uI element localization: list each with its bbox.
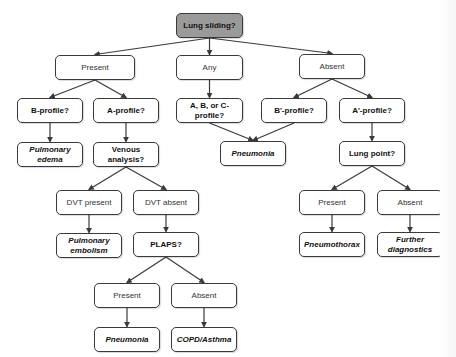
node-plaps-absent: Absent [171, 283, 237, 308]
edge-lung_sliding-to-absent_1 [210, 38, 333, 54]
right-edge-shading [440, 0, 456, 357]
node-abc-profile: A, B, or C-profile? [176, 98, 243, 123]
node-label: Pneumonia [231, 149, 274, 159]
edge-venous_analysis-to-dvt_present [89, 167, 126, 190]
node-label: DVT present [67, 198, 112, 208]
node-label: Lung sliding? [183, 21, 235, 31]
node-any: Any [176, 55, 243, 80]
node-plaps-present: Present [94, 283, 160, 308]
node-label: Present [318, 198, 346, 208]
node-label: Lung point? [349, 149, 395, 159]
edge-venous_analysis-to-dvt_absent [126, 167, 166, 190]
edge-plaps-to-present_plaps [127, 257, 166, 283]
edge-abc_profile-to-pneumonia_1 [210, 123, 254, 141]
edge-present_1-to-b_profile [50, 80, 95, 98]
node-lung-point-present: Present [299, 190, 365, 215]
node-label: A'-profile? [352, 106, 392, 116]
node-label: DVT absent [145, 198, 187, 208]
node-label: Venous analysis? [101, 145, 151, 165]
node-label: Present [113, 291, 141, 301]
node-label: Further diagnostics [385, 235, 435, 255]
node-lung-sliding: Lung sliding? [176, 13, 243, 38]
node-present: Present [55, 55, 135, 80]
node-label: Pneumonia [105, 335, 148, 345]
node-label: COPD/Asthma [177, 335, 232, 345]
node-label: Absent [398, 198, 423, 208]
edge-plaps-to-absent_plaps [166, 257, 204, 283]
node-label: B'-profile? [274, 106, 314, 116]
node-copd-asthma: COPD/Asthma [171, 327, 237, 352]
node-pneumonia: Pneumonia [220, 141, 286, 166]
node-label: PLAPS? [150, 240, 182, 250]
flowchart-canvas: Lung sliding? Present Any Absent B-profi… [0, 0, 456, 357]
node-b-profile: B-profile? [17, 98, 83, 123]
node-dvt-present: DVT present [56, 190, 122, 215]
node-pulmonary-edema: Pulmonary edema [17, 142, 83, 167]
edge-bprime_profile-to-pneumonia_1 [253, 123, 294, 141]
node-pneumothorax: Pneumothorax [299, 232, 365, 257]
edge-absent_1-to-bprime_profile [294, 79, 332, 98]
node-label: Absent [320, 62, 345, 72]
node-absent: Absent [299, 54, 365, 79]
node-label: A, B, or C-profile? [185, 101, 235, 121]
node-label: Pulmonary edema [25, 145, 75, 165]
node-b-prime-profile: B'-profile? [261, 98, 327, 123]
edge-present_1-to-a_profile [95, 80, 126, 98]
node-label: B-profile? [31, 106, 69, 116]
node-label: Pulmonary embolism [64, 236, 114, 256]
node-pneumonia-plaps: Pneumonia [94, 327, 160, 352]
node-lung-point: Lung point? [339, 141, 405, 166]
edge-lung_sliding-to-present_1 [95, 38, 210, 55]
node-plaps: PLAPS? [133, 232, 199, 257]
edge-lung_point-to-absent_lp [372, 166, 410, 190]
node-label: A-profile? [107, 106, 145, 116]
node-label: Present [81, 63, 109, 73]
node-pulmonary-embolism: Pulmonary embolism [56, 233, 122, 258]
node-venous-analysis: Venous analysis? [93, 142, 159, 167]
node-further-diagnostics: Further diagnostics [377, 232, 443, 257]
node-a-prime-profile: A'-profile? [339, 98, 405, 123]
node-label: Absent [192, 291, 217, 301]
edge-lung_point-to-present_lp [332, 166, 372, 190]
node-label: Any [203, 63, 217, 73]
edge-absent_1-to-aprime_profile [332, 79, 372, 98]
node-lung-point-absent: Absent [377, 190, 443, 215]
node-label: Pneumothorax [304, 240, 360, 250]
node-dvt-absent: DVT absent [133, 190, 199, 215]
node-a-profile: A-profile? [93, 98, 159, 123]
